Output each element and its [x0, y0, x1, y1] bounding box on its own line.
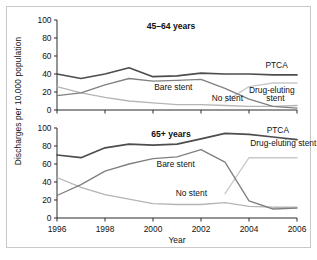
x-tick-label: 2000	[144, 224, 163, 234]
series-line-drug-eluting-stent	[225, 158, 297, 194]
series-annotation: No stent	[212, 93, 244, 103]
series-annotation: PTCA	[267, 125, 290, 135]
panel-65plus: 02040608010019961998200020022004200665+ …	[38, 123, 317, 234]
x-tick-label: 2006	[288, 224, 307, 234]
panel-title: 65+ years	[151, 129, 191, 139]
series-annotation: stent	[266, 93, 285, 103]
y-tick-label: 0	[47, 213, 52, 223]
chart-svg: 02040608010045–64 yearsPTCABare stentNo …	[0, 0, 317, 260]
y-tick-label: 60	[42, 159, 52, 169]
y-tick-label: 100	[38, 123, 52, 133]
y-tick-label: 20	[42, 87, 52, 97]
series-annotation: Drug-eluting stent	[250, 138, 317, 148]
y-tick-label: 80	[42, 141, 52, 151]
panel-45-64: 02040608010045–64 yearsPTCABare stentNo …	[38, 15, 297, 115]
y-tick-label: 40	[42, 69, 52, 79]
axis-spines	[57, 20, 297, 110]
series-line-ptca	[57, 68, 297, 79]
x-axis-title: Year	[169, 235, 186, 245]
y-tick-label: 60	[42, 51, 52, 61]
series-annotation: PTCA	[265, 60, 288, 70]
x-tick-label: 1996	[48, 224, 67, 234]
y-tick-label: 100	[38, 15, 52, 25]
panel-title: 45–64 years	[147, 21, 196, 31]
y-tick-label: 40	[42, 177, 52, 187]
x-tick-label: 1998	[96, 224, 115, 234]
y-tick-label: 0	[47, 105, 52, 115]
chart-canvas: 02040608010045–64 yearsPTCABare stentNo …	[0, 0, 317, 260]
x-tick-label: 2004	[240, 224, 259, 234]
y-tick-label: 20	[42, 195, 52, 205]
x-tick-label: 2002	[192, 224, 211, 234]
series-annotation: Bare stent	[154, 82, 193, 92]
series-annotation: No stent	[176, 188, 208, 198]
y-tick-label: 80	[42, 33, 52, 43]
series-annotation: Bare stent	[157, 159, 196, 169]
figure-root: Discharges per 10,000 population 0204060…	[0, 0, 317, 260]
